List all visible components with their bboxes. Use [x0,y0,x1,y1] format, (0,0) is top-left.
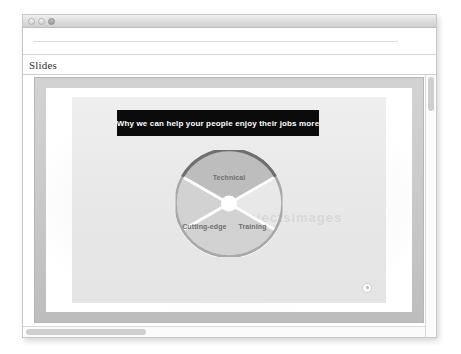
pie-label-training: Training [239,223,267,230]
toolbar [23,28,436,55]
slide-frame: ojectsimages Why we can help your people… [34,77,424,323]
horizontal-scrollbar[interactable] [23,326,425,337]
application-window: Slides ojectsimages Why we can help your… [22,14,437,338]
slide-title-banner: Why we can help your people enjoy their … [117,110,318,136]
vertical-scrollbar[interactable] [425,75,436,337]
tab-slides[interactable]: Slides [23,59,57,71]
pie-chart-svg [176,150,283,257]
window-titlebar [23,15,436,28]
toolbar-divider [33,41,398,42]
pie-chart[interactable]: Technical Cutting-edge Training [176,150,283,257]
horizontal-scrollbar-thumb[interactable] [26,329,146,335]
vertical-scrollbar-thumb[interactable] [428,77,434,111]
close-button[interactable] [28,18,35,25]
corner-badge-icon [362,283,372,293]
pie-center-hub [221,195,237,211]
editor-work-area: ojectsimages Why we can help your people… [23,75,436,337]
slide-title-text: Why we can help your people enjoy their … [117,119,320,128]
slide-canvas[interactable]: ojectsimages Why we can help your people… [46,88,412,312]
slide-content-plate: ojectsimages Why we can help your people… [72,97,387,303]
tab-strip: Slides [23,55,436,75]
minimize-button[interactable] [38,18,45,25]
pie-label-cutting-edge: Cutting-edge [182,223,226,230]
maximize-button[interactable] [48,18,55,25]
pie-label-technical: Technical [213,174,246,181]
